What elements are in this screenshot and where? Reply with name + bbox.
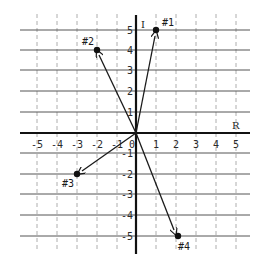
- vector-3-point: [74, 171, 80, 177]
- x-tick-label: -4: [51, 139, 63, 150]
- vector-1-arrow: [136, 36, 155, 133]
- x-axis-name: R: [232, 120, 240, 131]
- x-tick-label: -5: [31, 139, 43, 150]
- y-tick-label: 4: [127, 45, 133, 56]
- y-axis-name: I: [141, 19, 145, 30]
- y-tick-label: 5: [127, 25, 133, 36]
- vector-1-label: #1: [162, 17, 174, 28]
- vector-2-label: #2: [82, 36, 94, 47]
- vector-4-label: #4: [178, 241, 190, 252]
- y-tick-label: -3: [121, 189, 133, 200]
- vector-3-label: #3: [62, 178, 74, 189]
- x-tick-label: 4: [213, 139, 219, 150]
- vector-2-point: [94, 47, 100, 53]
- y-tick-label: 3: [127, 65, 133, 76]
- x-tick-label: 3: [193, 139, 199, 150]
- x-tick-labels: -5 -4 -3 -2 -1 0 1 2 3 4 5: [31, 139, 239, 150]
- vector-4-point: [175, 233, 181, 239]
- y-tick-label: -5: [121, 231, 133, 242]
- x-tick-label: 1: [153, 139, 159, 150]
- y-tick-label: -4: [121, 210, 133, 221]
- y-tick-label: -1: [121, 148, 133, 159]
- y-tick-label: -2: [121, 169, 133, 180]
- y-tick-label: 2: [127, 86, 133, 97]
- x-tick-label: -2: [91, 139, 103, 150]
- x-tick-label: 2: [173, 139, 179, 150]
- vector-1-point: [153, 27, 159, 33]
- x-tick-label: -3: [71, 139, 83, 150]
- x-tick-label: 5: [233, 139, 239, 150]
- vector-plot: -5 -4 -3 -2 -1 0 1 2 3 4 5 5 4 3 2 1 -1 …: [0, 0, 260, 261]
